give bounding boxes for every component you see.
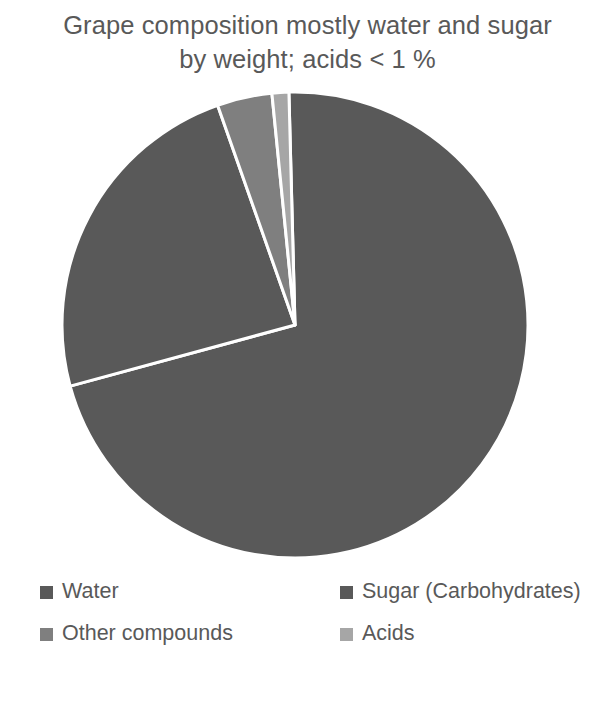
legend-item-water[interactable]: Water [0,572,290,610]
legend-swatch-icon [340,628,353,641]
legend-swatch-icon [40,628,53,641]
legend-item-acids[interactable]: Acids [290,614,615,652]
legend-label-sugar: Sugar (Carbohydrates) [362,578,581,604]
legend-item-sugar[interactable]: Sugar (Carbohydrates) [290,572,615,610]
legend-label-water: Water [62,578,119,604]
legend-row: Other compounds Acids [0,614,615,652]
legend-item-other-compounds[interactable]: Other compounds [0,614,290,652]
legend-label-acids: Acids [362,620,415,646]
legend-label-other-compounds: Other compounds [62,620,233,646]
pie-chart-figure: Grape composition mostly water and sugar… [0,0,615,705]
pie-svg: Water: 71.2%Sugar (Carbohydrates): 23.8%… [0,0,615,580]
legend-row: Water Sugar (Carbohydrates) [0,572,615,610]
chart-legend: Water Sugar (Carbohydrates) Other compou… [0,572,615,662]
legend-swatch-icon [340,586,353,599]
legend-swatch-icon [40,586,53,599]
plot-area: Water: 71.2%Sugar (Carbohydrates): 23.8%… [0,0,615,580]
pie-slice-group: Water: 71.2%Sugar (Carbohydrates): 23.8%… [62,92,528,558]
